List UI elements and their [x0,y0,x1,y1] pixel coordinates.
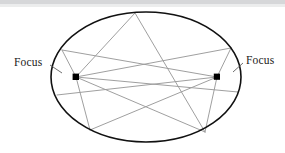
right-focus-dot [214,74,220,80]
top-gray-band-fade [0,5,285,8]
figure-canvas: Focus Focus [0,0,285,153]
figure-background [0,0,285,153]
left-focus-dot [73,74,79,80]
right-focus-label: Focus [246,54,275,66]
left-focus-label: Focus [14,56,43,68]
ellipse-foci-figure: Focus Focus [0,0,285,153]
top-gray-band [0,0,285,5]
